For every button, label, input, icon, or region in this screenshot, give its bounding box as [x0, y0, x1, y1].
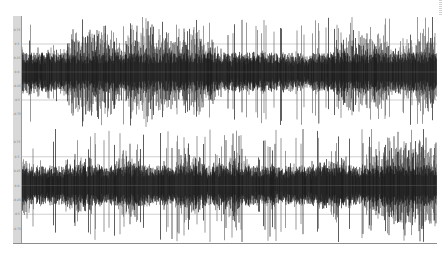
channel-1-amplitude-axis: 0.75 0.5 0.25 0.0 -0.25 -0.5 -0.75 — [13, 16, 22, 128]
tick-label: 0.75 — [13, 28, 21, 32]
timeline-bottom-border — [13, 243, 437, 244]
channel-2-waveform-plot[interactable] — [22, 128, 437, 243]
tick-label: -0.75 — [13, 227, 21, 231]
channel-1-waveform-plot[interactable] — [22, 16, 437, 128]
channel-2-waveform — [22, 128, 437, 243]
tick-label: 0.0 — [13, 184, 21, 188]
tick-label: -0.25 — [13, 84, 21, 88]
channel-1-waveform — [22, 16, 437, 128]
tick-label: -0.75 — [13, 112, 21, 116]
channel-1-track[interactable]: 0.75 0.5 0.25 0.0 -0.25 -0.5 -0.75 — [13, 16, 437, 128]
channel-2-amplitude-axis: 0.75 0.5 0.25 0.0 -0.25 -0.5 -0.75 — [13, 128, 22, 243]
tick-label: 0.75 — [13, 140, 21, 144]
tick-label: 0.25 — [13, 56, 21, 60]
scrollbar-grip[interactable] — [439, 0, 442, 16]
tick-label: -0.25 — [13, 198, 21, 202]
tick-label: 0.5 — [13, 42, 21, 46]
tick-label: 0.5 — [13, 155, 21, 159]
tick-label: 0.0 — [13, 70, 21, 74]
tick-label: -0.5 — [13, 98, 21, 102]
tick-label: -0.5 — [13, 212, 21, 216]
waveform-editor: 0.75 0.5 0.25 0.0 -0.25 -0.5 -0.75 0.75 … — [0, 0, 446, 258]
channel-2-track[interactable]: 0.75 0.5 0.25 0.0 -0.25 -0.5 -0.75 — [13, 128, 437, 243]
tick-label: 0.25 — [13, 169, 21, 173]
